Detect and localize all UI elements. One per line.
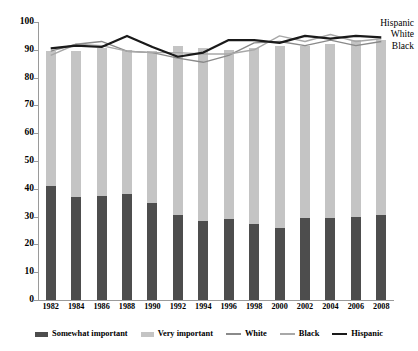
plot-area xyxy=(38,22,394,300)
edge-label-black: Black xyxy=(380,41,414,52)
legend-swatch-line xyxy=(226,333,241,335)
legend-swatch-bar xyxy=(141,332,154,337)
edge-label-hispanic: Hispanic xyxy=(380,18,414,29)
legend-swatch-line xyxy=(280,333,295,335)
y-tick-80: 80 xyxy=(0,73,34,83)
y-tick-30: 30 xyxy=(0,212,34,222)
series-edge-labels: HispanicWhiteBlack xyxy=(380,18,414,52)
legend-item-hispanic[interactable]: Hispanic xyxy=(332,330,383,338)
y-tick-50: 50 xyxy=(0,156,34,166)
legend-label: Very important xyxy=(158,330,213,338)
legend-item-very-important[interactable]: Very important xyxy=(141,330,213,338)
y-tick-mark-0 xyxy=(34,300,38,301)
y-tick-60: 60 xyxy=(0,128,34,138)
legend-item-somewhat-important[interactable]: Somewhat important xyxy=(35,330,128,338)
legend-item-white[interactable]: White xyxy=(226,330,267,338)
line-series-white xyxy=(51,40,382,62)
x-tick-2008: 2008 xyxy=(364,303,398,311)
x-axis-line xyxy=(38,300,394,301)
y-tick-0: 0 xyxy=(0,295,34,305)
legend-swatch-bar xyxy=(35,332,48,337)
y-tick-70: 70 xyxy=(0,100,34,110)
y-tick-40: 40 xyxy=(0,184,34,194)
legend-label: Hispanic xyxy=(351,330,383,338)
chart-container: 0102030405060708090100 19821984198619881… xyxy=(0,0,418,351)
y-tick-100: 100 xyxy=(0,17,34,27)
legend-item-black[interactable]: Black xyxy=(280,330,319,338)
legend-label: Somewhat important xyxy=(52,330,128,338)
chart-legend: Somewhat importantVery importantWhiteBla… xyxy=(0,330,418,338)
y-tick-20: 20 xyxy=(0,239,34,249)
edge-label-white: White xyxy=(380,29,414,40)
legend-label: White xyxy=(245,330,267,338)
legend-label: Black xyxy=(299,330,319,338)
line-series-group xyxy=(38,22,394,300)
y-tick-10: 10 xyxy=(0,267,34,277)
y-tick-90: 90 xyxy=(0,45,34,55)
legend-swatch-line xyxy=(332,333,347,335)
